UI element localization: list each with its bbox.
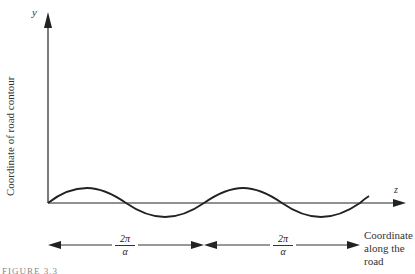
x-axis-label: Coordinate along the road xyxy=(364,229,413,268)
arrow-right-icon xyxy=(347,241,360,249)
y-axis-label: Coordinate of road contour xyxy=(4,77,16,196)
arrow-right-icon xyxy=(191,241,204,249)
figure-caption: FIGURE 3.3 xyxy=(2,266,58,274)
arrow-left-icon xyxy=(48,241,61,249)
wavelength-label-1: 2π α xyxy=(113,234,137,257)
wavelength-label-2: 2π α xyxy=(271,234,295,257)
y-axis-symbol: y xyxy=(32,6,37,19)
z-axis-arrowhead-icon xyxy=(393,199,406,207)
road-contour-diagram xyxy=(0,0,415,274)
y-axis-arrowhead-icon xyxy=(44,12,52,28)
z-axis-symbol: z xyxy=(394,183,398,196)
